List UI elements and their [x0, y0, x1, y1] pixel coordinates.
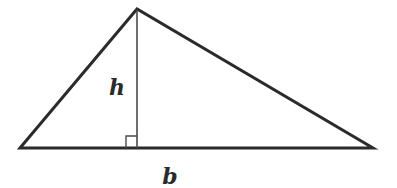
- height-label: h: [109, 74, 125, 100]
- right-angle-marker: [126, 136, 137, 148]
- triangle-diagram: h b: [0, 0, 397, 188]
- triangle-outline: [20, 9, 373, 148]
- base-label: b: [162, 163, 177, 188]
